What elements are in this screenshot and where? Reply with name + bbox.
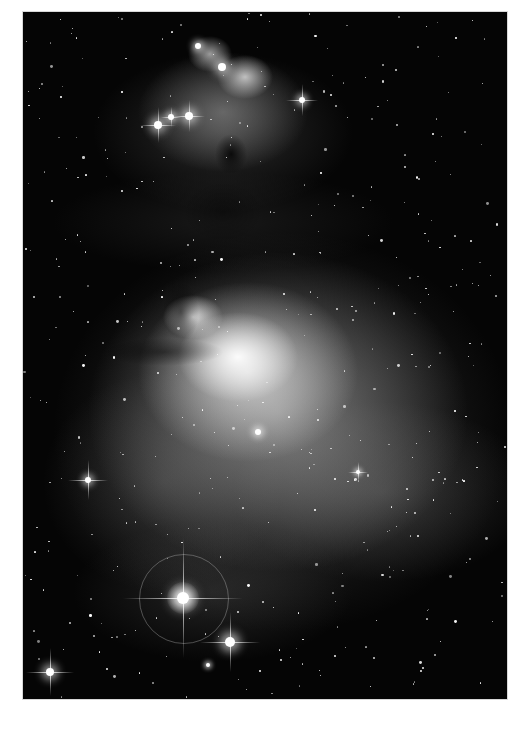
star-bottom-left <box>46 668 54 676</box>
star-top-a <box>218 63 226 71</box>
bright-stars <box>23 12 507 699</box>
star-halo-bottom <box>177 592 189 604</box>
star-top-cluster-a <box>154 121 162 129</box>
star-right-mid <box>356 470 360 474</box>
star-top-cluster-c <box>168 114 174 120</box>
star-top-right <box>299 97 305 103</box>
star-top-b <box>195 43 201 49</box>
star-bottom-right <box>225 637 235 647</box>
star-top-cluster-b <box>185 112 193 120</box>
nebula-photograph <box>23 12 507 699</box>
star-trapezium <box>255 429 261 435</box>
star-left-mid <box>85 477 91 483</box>
star-bottom-small <box>206 663 210 667</box>
